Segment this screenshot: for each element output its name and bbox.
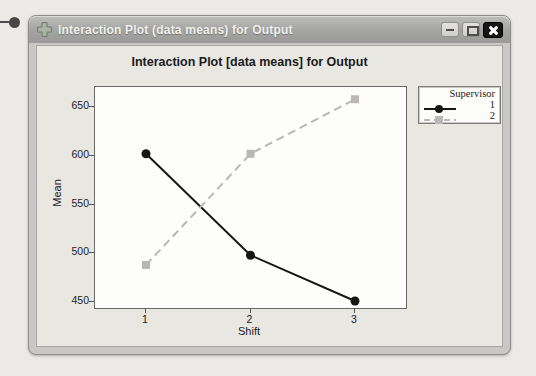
callout-dot [9, 17, 20, 28]
x-tick-label: 2 [240, 313, 260, 325]
plot-area [94, 86, 407, 309]
data-point [142, 149, 151, 158]
x-axis-label: Shift [219, 325, 279, 337]
data-point [142, 261, 150, 269]
plus-cross-icon [37, 22, 52, 37]
legend-title: Supervisor [423, 88, 495, 99]
data-point [247, 150, 255, 158]
y-tick-mark [89, 301, 94, 302]
maximize-button[interactable] [462, 22, 480, 37]
x-tick-mark [250, 308, 251, 313]
series2-marker-sample [423, 111, 459, 121]
legend-label: 1 [459, 100, 495, 110]
y-tick-mark [89, 106, 94, 107]
window-interaction-plot: Interaction Plot (data means) for Output… [28, 15, 511, 355]
series1-marker-sample [423, 100, 459, 110]
page: Interaction Plot (data means) for Output… [0, 0, 536, 376]
window-controls [441, 22, 503, 38]
legend-item: 2 [423, 110, 495, 121]
data-point [246, 251, 255, 260]
window-titlebar[interactable]: Interaction Plot (data means) for Output [29, 16, 510, 43]
data-point [351, 95, 359, 103]
close-button[interactable] [483, 22, 503, 38]
y-tick-mark [89, 252, 94, 253]
y-tick-mark [89, 155, 94, 156]
x-tick-label: 3 [344, 313, 364, 325]
x-tick-mark [145, 308, 146, 313]
y-tick-label: 600 [55, 148, 89, 160]
legend-label: 2 [459, 111, 495, 121]
y-tick-label: 650 [55, 99, 89, 111]
y-axis-label: Mean [51, 167, 63, 219]
x-tick-mark [354, 308, 355, 313]
legend-item: 1 [423, 99, 495, 110]
minimize-button[interactable] [441, 22, 459, 37]
x-tick-label: 1 [135, 313, 155, 325]
window-title: Interaction Plot (data means) for Output [58, 23, 441, 37]
y-tick-label: 450 [55, 294, 89, 306]
data-point [351, 297, 360, 306]
chart-canvas: Interaction Plot [data means] for Output… [36, 45, 503, 347]
maximize-icon [467, 26, 479, 36]
chart-title: Interaction Plot [data means] for Output [94, 55, 405, 69]
series-plot [95, 87, 406, 308]
legend: Supervisor 1 2 [418, 86, 501, 124]
y-tick-mark [89, 204, 94, 205]
minimize-icon [446, 29, 454, 31]
y-tick-label: 500 [55, 245, 89, 257]
